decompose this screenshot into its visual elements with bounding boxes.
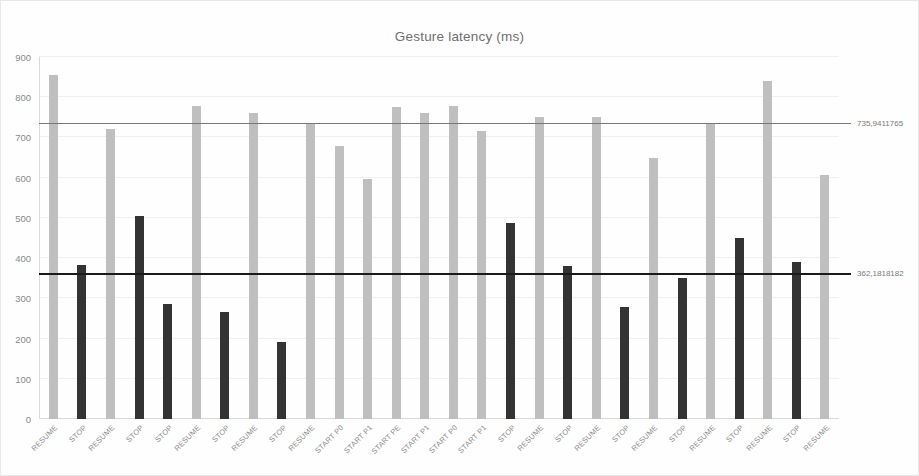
bar[interactable] [820, 175, 829, 419]
x-axis-tick-slot: RESUME [239, 421, 268, 476]
x-axis-tick: STOP [610, 423, 631, 444]
plot-area [39, 57, 839, 419]
y-axis-tick: 200 [15, 333, 31, 344]
bar[interactable] [706, 124, 715, 419]
x-axis-tick-slot: RESUME [582, 421, 611, 476]
bar-slot [525, 57, 554, 419]
x-axis-tick: STOP [267, 423, 288, 444]
bar[interactable] [477, 131, 486, 419]
x-axis-tick-slot: RESUME [639, 421, 668, 476]
bar[interactable] [249, 113, 258, 419]
bar[interactable] [506, 223, 515, 419]
bar-series [39, 57, 839, 419]
x-axis-tick: STOP [553, 423, 574, 444]
bar[interactable] [392, 107, 401, 419]
x-axis-tick-slot: START P1 [468, 421, 497, 476]
bar-slot [39, 57, 68, 419]
reference-line-label: 362,1818182 [857, 269, 904, 278]
bar-slot [239, 57, 268, 419]
y-axis-tick: 300 [15, 293, 31, 304]
reference-line-label: 735,9411765 [857, 118, 903, 127]
x-axis-tick-slot: RESUME [696, 421, 725, 476]
bar-slot [382, 57, 411, 419]
x-axis-tick-slot: RESUME [39, 421, 68, 476]
x-axis-tick-slot: RESUME [182, 421, 211, 476]
y-axis-tick: 400 [15, 253, 31, 264]
x-axis-tick: STOP [124, 423, 145, 444]
bar[interactable] [277, 342, 286, 419]
bar-slot [96, 57, 125, 419]
x-axis-tick: STOP [724, 423, 745, 444]
x-axis-tick: RESUME [30, 423, 60, 453]
y-axis-tick: 0 [26, 414, 31, 425]
x-axis-tick: STOP [781, 423, 802, 444]
bar[interactable] [106, 129, 115, 419]
bar-slot [68, 57, 97, 419]
bar-slot [668, 57, 697, 419]
bar-slot [496, 57, 525, 419]
bar-slot [753, 57, 782, 419]
bar-slot [439, 57, 468, 419]
bar[interactable] [192, 106, 201, 419]
y-axis-tick: 500 [15, 212, 31, 223]
bar[interactable] [49, 75, 58, 419]
bar-slot [639, 57, 668, 419]
bar[interactable] [620, 307, 629, 419]
x-axis-tick-slot: RESUME [96, 421, 125, 476]
x-axis-tick-labels: RESUMESTOPRESUMESTOPSTOPRESUMESTOPRESUME… [39, 421, 839, 476]
x-axis-tick-slot: STOP [125, 421, 154, 476]
bar[interactable] [735, 238, 744, 419]
bar[interactable] [792, 262, 801, 419]
x-axis-tick: STOP [496, 423, 517, 444]
x-axis-tick: STOP [153, 423, 174, 444]
bar[interactable] [449, 106, 458, 419]
bar[interactable] [306, 124, 315, 419]
bar-slot [182, 57, 211, 419]
bar-slot [125, 57, 154, 419]
y-axis-tick: 700 [15, 132, 31, 143]
bar-slot [296, 57, 325, 419]
y-axis-tick-labels: 0100200300400500600700800900 [1, 57, 35, 419]
bar-slot [725, 57, 754, 419]
bar[interactable] [649, 158, 658, 419]
bar[interactable] [163, 304, 172, 419]
bar[interactable] [220, 312, 229, 419]
bar-slot [468, 57, 497, 419]
bar-slot [553, 57, 582, 419]
bar[interactable] [535, 117, 544, 419]
bar-slot [353, 57, 382, 419]
x-axis-tick-slot: RESUME [753, 421, 782, 476]
x-axis-tick: STOP [667, 423, 688, 444]
bar[interactable] [77, 265, 86, 419]
bar[interactable] [363, 179, 372, 419]
y-axis-tick: 800 [15, 92, 31, 103]
bar-slot [582, 57, 611, 419]
bar[interactable] [420, 113, 429, 419]
x-axis-tick: STOP [67, 423, 88, 444]
bar-slot [811, 57, 840, 419]
bar[interactable] [763, 81, 772, 419]
bar-slot [696, 57, 725, 419]
x-axis-tick: STOP [210, 423, 231, 444]
y-axis-tick: 600 [15, 172, 31, 183]
bar-slot [325, 57, 354, 419]
bar-slot [411, 57, 440, 419]
bar[interactable] [678, 278, 687, 419]
chart-title: Gesture latency (ms) [1, 29, 918, 44]
bar-slot [268, 57, 297, 419]
x-axis-tick-slot: RESUME [525, 421, 554, 476]
bar-slot [153, 57, 182, 419]
bar-slot [782, 57, 811, 419]
x-axis-tick-slot: RESUME [811, 421, 840, 476]
y-axis-tick: 900 [15, 52, 31, 63]
bar[interactable] [592, 117, 601, 419]
y-axis-tick: 100 [15, 373, 31, 384]
bar-slot [611, 57, 640, 419]
bar[interactable] [563, 266, 572, 419]
bar[interactable] [135, 216, 144, 419]
bar-slot [210, 57, 239, 419]
bar[interactable] [335, 146, 344, 419]
chart-container: Gesture latency (ms) 0100200300400500600… [0, 0, 919, 476]
